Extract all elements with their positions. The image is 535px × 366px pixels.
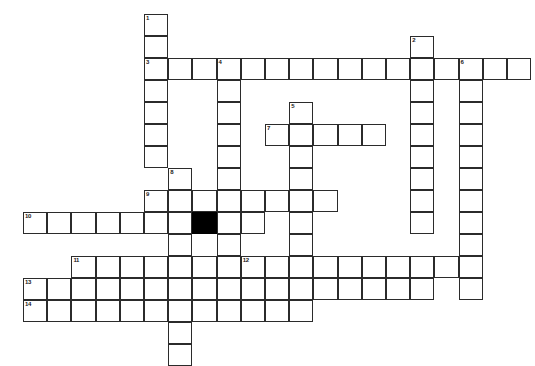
crossword-cell[interactable]	[313, 256, 337, 278]
crossword-cell[interactable]	[313, 124, 337, 146]
crossword-cell[interactable]	[289, 124, 313, 146]
crossword-cell[interactable]	[217, 256, 241, 278]
crossword-cell[interactable]	[386, 256, 410, 278]
crossword-cell[interactable]	[265, 278, 289, 300]
crossword-cell[interactable]	[459, 102, 483, 124]
crossword-cell[interactable]	[289, 278, 313, 300]
crossword-cell[interactable]: 2	[410, 36, 434, 58]
crossword-cell[interactable]	[217, 190, 241, 212]
crossword-cell[interactable]	[120, 256, 144, 278]
crossword-cell[interactable]	[289, 234, 313, 256]
crossword-cell[interactable]	[362, 278, 386, 300]
crossword-cell[interactable]: 10	[23, 212, 47, 234]
crossword-cell[interactable]	[217, 212, 241, 234]
crossword-cell[interactable]	[71, 300, 95, 322]
crossword-cell[interactable]	[459, 212, 483, 234]
crossword-cell[interactable]	[168, 190, 192, 212]
crossword-cell[interactable]	[144, 80, 168, 102]
crossword-cell[interactable]	[338, 256, 362, 278]
crossword-cell[interactable]	[168, 234, 192, 256]
crossword-cell[interactable]	[241, 278, 265, 300]
crossword-cell[interactable]	[386, 58, 410, 80]
crossword-cell[interactable]	[289, 256, 313, 278]
crossword-cell[interactable]	[96, 256, 120, 278]
crossword-cell[interactable]	[47, 212, 71, 234]
crossword-cell[interactable]: 7	[265, 124, 289, 146]
crossword-cell[interactable]	[71, 278, 95, 300]
crossword-cell[interactable]	[362, 124, 386, 146]
crossword-cell[interactable]	[168, 212, 192, 234]
crossword-cell[interactable]	[289, 58, 313, 80]
crossword-cell[interactable]	[120, 300, 144, 322]
crossword-cell[interactable]	[289, 190, 313, 212]
crossword-cell[interactable]	[313, 58, 337, 80]
crossword-cell[interactable]	[338, 124, 362, 146]
crossword-cell[interactable]	[434, 58, 458, 80]
crossword-cell[interactable]	[168, 58, 192, 80]
crossword-cell[interactable]: 13	[23, 278, 47, 300]
crossword-cell[interactable]	[459, 234, 483, 256]
crossword-cell[interactable]	[386, 278, 410, 300]
crossword-cell[interactable]	[265, 300, 289, 322]
crossword-cell[interactable]	[71, 212, 95, 234]
crossword-cell[interactable]	[168, 256, 192, 278]
crossword-cell[interactable]: 9	[144, 190, 168, 212]
crossword-cell[interactable]	[192, 300, 216, 322]
crossword-cell[interactable]	[459, 256, 483, 278]
crossword-cell[interactable]	[96, 278, 120, 300]
crossword-cell[interactable]	[434, 256, 458, 278]
crossword-cell[interactable]	[410, 278, 434, 300]
crossword-cell[interactable]: 14	[23, 300, 47, 322]
crossword-cell[interactable]: 6	[459, 58, 483, 80]
crossword-cell[interactable]	[217, 300, 241, 322]
crossword-cell[interactable]	[265, 58, 289, 80]
crossword-cell[interactable]	[362, 256, 386, 278]
crossword-cell[interactable]	[168, 278, 192, 300]
crossword-cell[interactable]	[459, 124, 483, 146]
crossword-cell[interactable]	[313, 190, 337, 212]
crossword-cell[interactable]	[459, 168, 483, 190]
crossword-cell[interactable]	[459, 190, 483, 212]
crossword-cell[interactable]	[192, 58, 216, 80]
crossword-cell[interactable]	[410, 80, 434, 102]
crossword-cell[interactable]	[120, 212, 144, 234]
crossword-cell[interactable]	[313, 278, 337, 300]
crossword-cell[interactable]	[265, 256, 289, 278]
crossword-cell[interactable]	[410, 102, 434, 124]
crossword-cell[interactable]	[217, 168, 241, 190]
crossword-cell[interactable]: 4	[217, 58, 241, 80]
crossword-cell[interactable]	[459, 146, 483, 168]
crossword-cell[interactable]	[168, 322, 192, 344]
crossword-cell[interactable]	[338, 58, 362, 80]
crossword-cell[interactable]	[289, 168, 313, 190]
crossword-cell[interactable]	[241, 190, 265, 212]
crossword-cell[interactable]	[217, 124, 241, 146]
crossword-cell[interactable]	[192, 256, 216, 278]
crossword-cell[interactable]	[289, 146, 313, 168]
crossword-cell[interactable]	[168, 344, 192, 366]
crossword-cell[interactable]	[96, 300, 120, 322]
crossword-cell[interactable]	[144, 124, 168, 146]
crossword-cell[interactable]	[241, 58, 265, 80]
crossword-cell[interactable]	[144, 102, 168, 124]
crossword-cell[interactable]: 3	[144, 58, 168, 80]
crossword-cell[interactable]	[120, 278, 144, 300]
crossword-cell[interactable]	[217, 278, 241, 300]
crossword-cell[interactable]	[410, 146, 434, 168]
crossword-cell[interactable]	[338, 278, 362, 300]
crossword-cell[interactable]	[217, 80, 241, 102]
crossword-cell[interactable]	[144, 146, 168, 168]
crossword-cell[interactable]	[144, 256, 168, 278]
crossword-cell[interactable]	[144, 36, 168, 58]
crossword-cell[interactable]	[459, 80, 483, 102]
crossword-cell[interactable]: 1	[144, 14, 168, 36]
crossword-cell[interactable]	[241, 212, 265, 234]
crossword-cell[interactable]	[241, 300, 265, 322]
crossword-cell[interactable]	[410, 58, 434, 80]
crossword-cell[interactable]	[410, 212, 434, 234]
crossword-cell[interactable]: 12	[241, 256, 265, 278]
crossword-cell[interactable]	[168, 300, 192, 322]
crossword-cell[interactable]	[265, 190, 289, 212]
crossword-cell[interactable]	[410, 124, 434, 146]
